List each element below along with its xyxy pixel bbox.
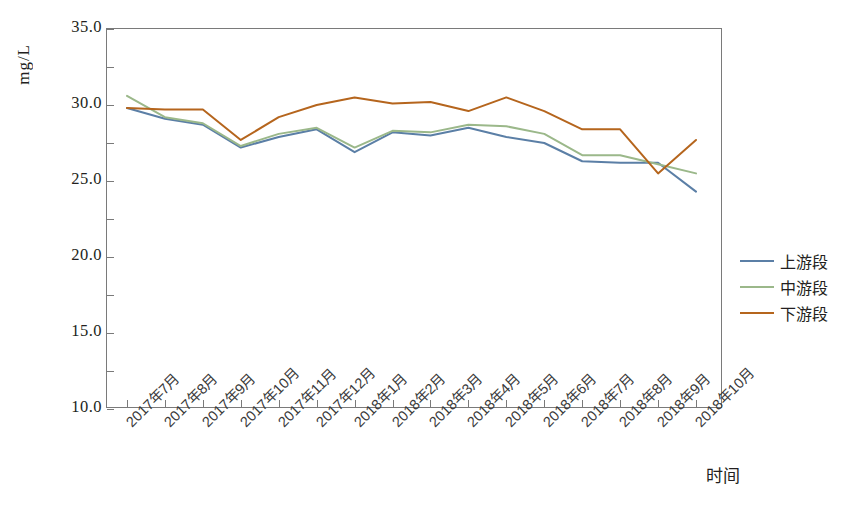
legend-item[interactable]: 中游段 <box>740 274 848 300</box>
x-axis-title: 时间 <box>706 462 740 487</box>
legend: 上游段中游段下游段 <box>740 248 848 326</box>
legend-swatch-line-icon <box>740 260 774 262</box>
legend-item-label: 下游段 <box>780 301 828 325</box>
legend-item[interactable]: 下游段 <box>740 300 848 326</box>
legend-item[interactable]: 上游段 <box>740 248 848 274</box>
legend-swatch-line-icon <box>740 286 774 288</box>
legend-item-label: 上游段 <box>780 249 828 273</box>
chart-container: mg/L 35.030.025.020.015.010.0 2017年7月201… <box>0 0 852 510</box>
legend-swatch-line-icon <box>740 312 774 314</box>
legend-item-label: 中游段 <box>780 275 828 299</box>
x-axis-tick-labels: 2017年7月2017年8月2017年9月2017年10月2017年11月201… <box>0 0 852 510</box>
